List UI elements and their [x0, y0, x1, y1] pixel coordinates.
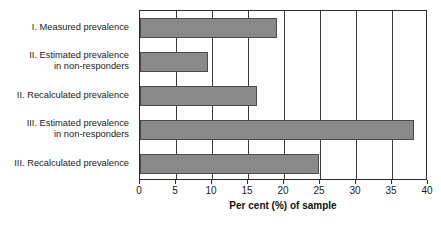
x-tickmark: [175, 180, 176, 184]
category-label: I. Measured prevalence: [32, 22, 129, 33]
x-tick-label: 35: [385, 185, 396, 197]
category-label: III. Recalculated prevalence: [14, 158, 129, 169]
x-tickmark: [211, 180, 212, 184]
x-axis-title: Per cent (%) of sample: [139, 200, 427, 211]
x-tick-label: 30: [349, 185, 360, 197]
bar-chart-figure: I. Measured prevalenceII. Estimated prev…: [0, 0, 441, 225]
x-tick-label: 5: [172, 185, 178, 197]
x-tick-label: 40: [421, 185, 432, 197]
category-label: II. Recalculated prevalence: [17, 90, 129, 101]
category-label: II. Estimated prevalence in non-responde…: [29, 50, 129, 71]
x-tick-label: 0: [136, 185, 142, 197]
x-tick-label: 10: [205, 185, 216, 197]
x-tickmark: [427, 180, 428, 184]
x-tickmark: [139, 180, 140, 184]
bar: [140, 86, 257, 106]
plot-area: [139, 10, 427, 180]
bar: [140, 120, 414, 140]
x-tickmark: [247, 180, 248, 184]
x-tick-label: 25: [313, 185, 324, 197]
x-axis-tick-labels: 0510152025303540: [139, 185, 427, 198]
bar: [140, 18, 277, 38]
bar: [140, 154, 319, 174]
x-tickmark: [355, 180, 356, 184]
category-label: III. Estimated prevalence in non-respond…: [27, 118, 129, 139]
bar-series: [140, 11, 426, 179]
x-tickmark: [391, 180, 392, 184]
x-tick-label: 15: [241, 185, 252, 197]
x-tickmark: [283, 180, 284, 184]
x-tick-label: 20: [277, 185, 288, 197]
category-label-column: I. Measured prevalenceII. Estimated prev…: [0, 10, 134, 180]
x-tickmark: [319, 180, 320, 184]
bar: [140, 52, 208, 72]
